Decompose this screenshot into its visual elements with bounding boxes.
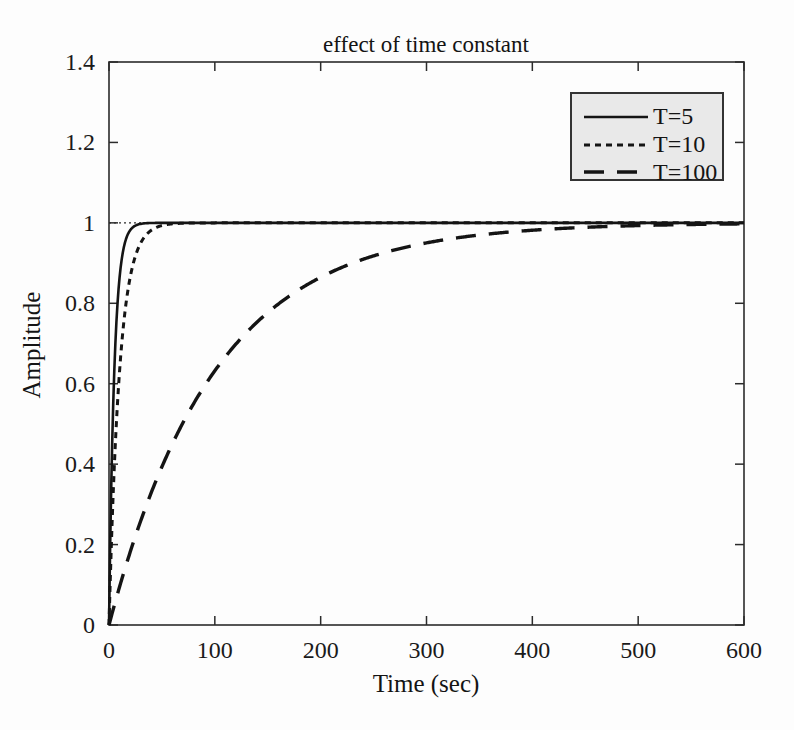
legend: T=5 T=10 T=100	[571, 93, 723, 185]
chart-title: effect of time constant	[323, 32, 529, 57]
legend-label-2: T=100	[653, 159, 717, 185]
x-tick-label: 600	[726, 637, 762, 663]
x-axis-title: Time (sec)	[373, 670, 480, 698]
x-tick-label: 100	[197, 637, 233, 663]
y-tick-label: 0.8	[65, 290, 95, 316]
x-axis-tick-labels: 0100200300400500600	[103, 637, 762, 663]
legend-label-0: T=5	[653, 103, 693, 129]
y-tick-label: 0.6	[65, 371, 95, 397]
data-curves	[109, 223, 744, 625]
curve-t100	[109, 224, 744, 625]
x-tick-label: 0	[103, 637, 115, 663]
x-tick-label: 300	[409, 637, 445, 663]
y-axis-tick-labels: 00.20.40.60.811.21.4	[65, 49, 95, 638]
curve-t5	[109, 223, 744, 625]
legend-label-1: T=10	[653, 131, 705, 157]
x-tick-label: 400	[514, 637, 550, 663]
curve-t10	[109, 223, 744, 625]
y-tick-label: 0.4	[65, 451, 95, 477]
chart-figure: 0100200300400500600 00.20.40.60.811.21.4…	[0, 0, 794, 730]
y-tick-label: 1.4	[65, 49, 95, 75]
y-tick-label: 0.2	[65, 532, 95, 558]
x-tick-label: 500	[620, 637, 656, 663]
figure-page: 0100200300400500600 00.20.40.60.811.21.4…	[0, 0, 794, 730]
y-axis-title: Amplitude	[18, 292, 45, 399]
y-tick-label: 1	[83, 210, 95, 236]
y-tick-label: 0	[83, 612, 95, 638]
x-tick-label: 200	[303, 637, 339, 663]
y-tick-label: 1.2	[65, 129, 95, 155]
